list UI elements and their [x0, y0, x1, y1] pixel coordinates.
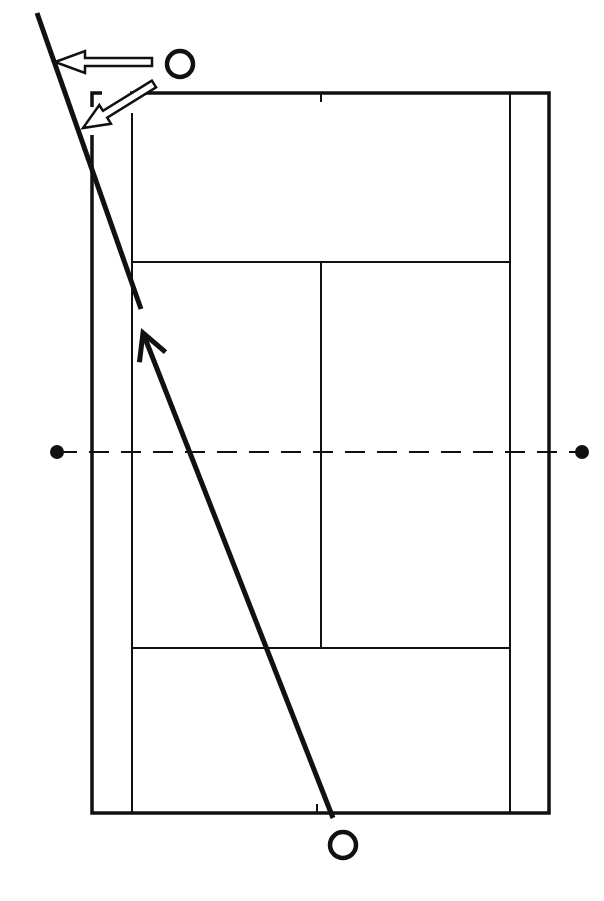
- move-left-arrow-icon: [55, 51, 152, 73]
- net-post-left: [50, 445, 64, 459]
- shot-trajectory-line: [143, 333, 333, 818]
- net-post-right: [575, 445, 589, 459]
- move-diagonal-arrow-icon: [83, 81, 156, 128]
- tennis-court-diagram: [0, 0, 604, 901]
- tennis-court: [57, 93, 582, 813]
- player-top-marker: [167, 51, 193, 77]
- player-bottom-marker: [330, 832, 356, 858]
